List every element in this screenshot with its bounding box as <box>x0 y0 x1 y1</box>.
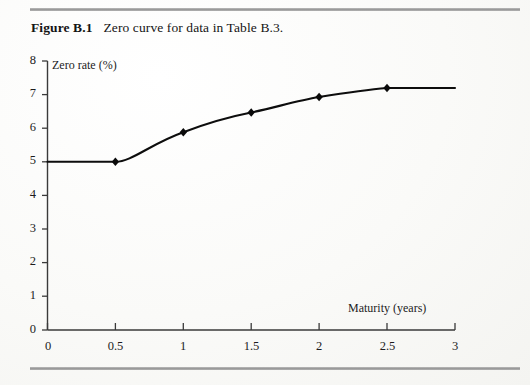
y-tick-label-8: 8 <box>22 53 36 68</box>
chart-axes <box>48 61 456 330</box>
zero-curve-chart: 8 7 6 5 4 3 2 1 0 0 0.5 1 1.5 2 2.5 3 Ze… <box>0 0 530 385</box>
y-tick-label-7: 7 <box>22 86 36 101</box>
data-point <box>383 84 390 92</box>
x-tick-label-1: 1 <box>177 339 189 354</box>
y-axis-title: Zero rate (%) <box>52 58 117 73</box>
y-tick-label-5: 5 <box>22 153 36 168</box>
y-axis-ticks <box>42 61 48 330</box>
data-point <box>112 158 119 166</box>
figure-page: Figure B.1Zero curve for data in Table B… <box>0 0 530 385</box>
y-tick-label-4: 4 <box>22 187 36 202</box>
y-tick-label-0: 0 <box>22 322 36 337</box>
y-tick-label-2: 2 <box>22 254 36 269</box>
data-point <box>315 93 322 101</box>
data-point <box>248 108 255 116</box>
x-tick-label-0-5: 0.5 <box>103 339 128 354</box>
data-point <box>180 128 187 136</box>
zero-curve-line <box>48 88 456 162</box>
x-tick-label-1-5: 1.5 <box>239 339 264 354</box>
x-tick-label-2-5: 2.5 <box>375 339 400 354</box>
x-tick-label-2: 2 <box>313 339 325 354</box>
y-tick-label-6: 6 <box>22 120 36 135</box>
x-tick-label-0: 0 <box>42 339 54 354</box>
x-axis-title: Maturity (years) <box>348 301 426 316</box>
y-tick-label-3: 3 <box>22 221 36 236</box>
x-tick-label-3: 3 <box>449 339 461 354</box>
x-axis-ticks <box>48 323 456 330</box>
data-point-markers <box>112 84 391 166</box>
y-tick-label-1: 1 <box>22 288 36 303</box>
